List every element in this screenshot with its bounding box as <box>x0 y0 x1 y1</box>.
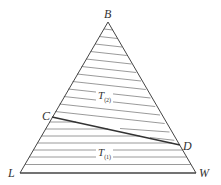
vertex-label-b: B <box>104 8 111 20</box>
region-label-t2: T(2) <box>96 90 113 103</box>
region-label-t2-sub: (2) <box>104 97 111 103</box>
vertex-label-w: W <box>199 167 209 179</box>
upper-region-hatching <box>55 29 174 140</box>
region-label-t1-sub: (1) <box>104 154 111 160</box>
vertex-label-l: L <box>8 167 15 179</box>
point-label-c: C <box>42 110 50 122</box>
region-label-t1: T(1) <box>96 147 113 160</box>
point-label-d: D <box>183 140 192 152</box>
